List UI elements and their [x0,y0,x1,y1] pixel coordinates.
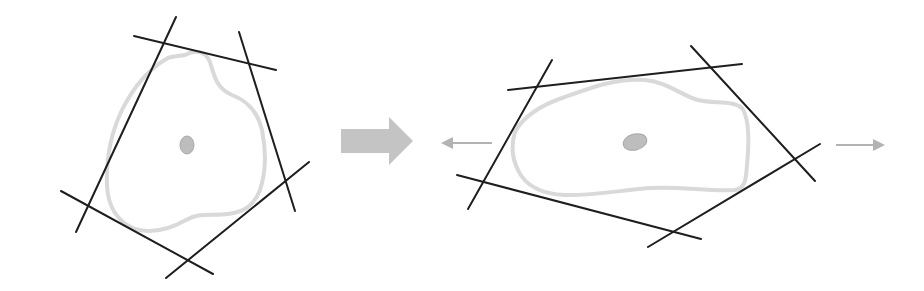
nucleus-before [180,136,194,154]
tangent-line-right [239,32,295,211]
panel-before [61,17,309,278]
tangent-line-bottom-after [457,175,701,239]
panel-after [441,46,885,247]
tangent-line-bottom-right-after [648,144,820,247]
tangent-line-bottom-left [61,191,213,274]
cell-elongation-diagram [0,0,924,291]
arrow-right-icon [836,139,885,151]
tangent-line-left [76,17,176,232]
tangent-line-right-after [691,46,815,181]
arrow-left-icon [441,137,492,149]
tangent-line-left-after [468,60,552,209]
nucleus-after [621,131,648,153]
thick-right-arrow-icon [341,117,413,165]
